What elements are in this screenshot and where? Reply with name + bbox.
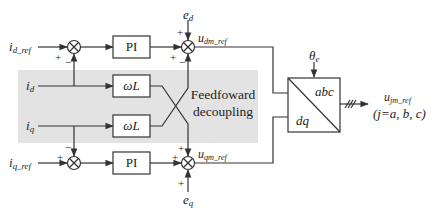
label-id-ref: id_ref — [9, 40, 31, 55]
label-id: id — [26, 79, 34, 94]
wl-d-label: ωL — [113, 75, 150, 97]
pi-q-label: PI — [113, 152, 150, 174]
sign-q-ref-plus: + — [57, 152, 63, 163]
control-block-diagram: PI ωL ωL PI abc dq Feedfoward decoupling… — [0, 0, 438, 215]
label-iq-ref: iq_ref — [9, 156, 31, 171]
summer-q-error — [68, 157, 81, 170]
label-ed: ed — [183, 8, 193, 23]
label-iq: iq — [26, 119, 34, 134]
sign-udm-cross-minus: − — [179, 57, 185, 68]
wl-q-label: ωL — [113, 115, 150, 137]
sign-ed-plus: + — [177, 27, 183, 38]
sign-q-minus: − — [65, 142, 71, 153]
sign-uqm-pi-plus: + — [172, 152, 178, 163]
label-j-definition: (j=a, b, c) — [373, 107, 426, 120]
region-label-line1: Feedfoward — [186, 87, 260, 104]
label-uqm-ref: uqm_ref — [198, 148, 227, 162]
sign-udm-pi-plus: + — [170, 52, 176, 63]
summer-uqm — [182, 157, 195, 170]
abc-label: abc — [315, 84, 334, 100]
pi-d-label: PI — [113, 36, 150, 58]
summer-udm — [182, 41, 195, 54]
feedforward-decoupling-label: Feedfoward decoupling — [186, 87, 260, 121]
label-eq: eq — [183, 193, 193, 208]
sign-d-ref-plus: + — [55, 52, 61, 63]
dq-label: dq — [296, 113, 309, 129]
summer-d-error — [68, 41, 81, 54]
region-label-line2: decoupling — [186, 104, 260, 121]
sign-d-minus: − — [65, 57, 71, 68]
sign-eq-plus: + — [178, 178, 184, 189]
sign-uqm-cross-plus: + — [178, 143, 184, 154]
label-ujm-ref: ujm_ref — [384, 91, 411, 105]
label-udm-ref: udm_ref — [198, 32, 227, 46]
label-theta-e: θe — [309, 49, 319, 64]
